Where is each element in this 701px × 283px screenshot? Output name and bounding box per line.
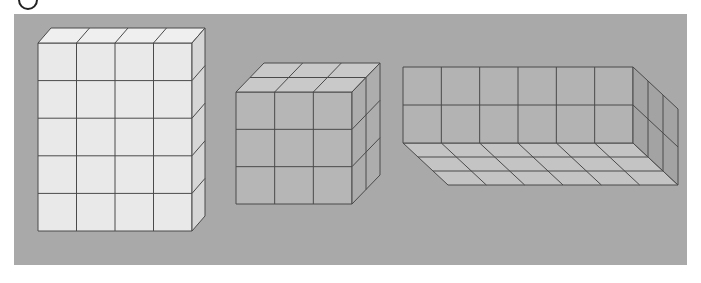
front-face — [236, 92, 352, 204]
side-face — [192, 28, 205, 231]
circled-number-icon — [19, 0, 37, 9]
label-marker — [19, 0, 37, 9]
cube-3x3x2 — [236, 63, 380, 204]
tall-rectangular-prism — [38, 28, 205, 231]
figure-canvas — [0, 0, 701, 283]
figure-stage — [0, 0, 701, 283]
open-box-tray — [403, 67, 678, 185]
